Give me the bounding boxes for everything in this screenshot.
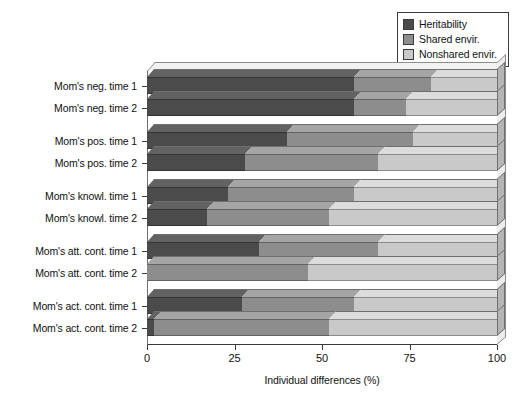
bar-top-face — [147, 146, 504, 154]
y-axis-label-10: Mom's act. cont. time 2 — [0, 322, 137, 334]
bar-segment-nonshared-envir — [329, 319, 497, 336]
bar-top-face — [147, 289, 504, 297]
bar-top-segment — [406, 91, 504, 99]
x-axis-tick-label-75: 75 — [403, 352, 415, 365]
x-axis-tick-label-0: 0 — [144, 352, 150, 365]
bar-top-face — [147, 234, 504, 242]
bar-top-segment — [147, 234, 266, 242]
bar-segment-nonshared-envir — [406, 99, 497, 116]
y-axis-label-8: Mom's att. cont. time 2 — [0, 267, 137, 279]
bar-top-segment — [287, 124, 420, 132]
y-axis-label-9: Mom's act. cont. time 1 — [0, 300, 137, 312]
y-axis-tick — [142, 108, 147, 109]
bar-top-segment — [228, 179, 361, 187]
bar-4 — [147, 154, 497, 171]
bar-top-segment — [147, 201, 214, 209]
y-axis-tick — [142, 218, 147, 219]
y-axis-label-4: Mom's pos. time 2 — [0, 157, 137, 169]
bar-top-segment — [147, 124, 294, 132]
bar-top-segment — [308, 256, 504, 264]
bar-top-segment — [147, 91, 361, 99]
bar-top-face — [147, 256, 504, 264]
bar-top-segment — [354, 91, 414, 99]
y-axis-label-7: Mom's att. cont. time 1 — [0, 245, 137, 257]
y-axis-tick — [142, 251, 147, 252]
y-axis-label-6: Mom's knowl. time 2 — [0, 212, 137, 224]
bar-top-segment — [207, 201, 337, 209]
bar-top-segment — [154, 311, 336, 319]
legend-swatch-heritability — [403, 19, 414, 30]
bar-segment-heritability — [147, 319, 154, 336]
bar-2 — [147, 99, 497, 116]
stacked-bar-chart: Heritability Shared envir. Nonshared env… — [0, 0, 519, 401]
bar-10 — [147, 319, 497, 336]
bar-segment-shared-envir — [207, 209, 330, 226]
bar-8 — [147, 264, 497, 281]
bar-top-face — [147, 91, 504, 99]
y-axis-tick — [142, 141, 147, 142]
y-axis-tick — [142, 86, 147, 87]
bar-top-face — [147, 124, 504, 132]
legend-swatch-nonshared-envir — [403, 49, 414, 60]
chart-legend: Heritability Shared envir. Nonshared env… — [397, 12, 509, 67]
x-axis-tick-label-25: 25 — [228, 352, 240, 365]
bar-top-segment — [329, 201, 504, 209]
bar-top-segment — [413, 124, 504, 132]
y-axis-tick — [142, 273, 147, 274]
bar-segment-heritability — [147, 99, 354, 116]
y-axis-tick — [142, 196, 147, 197]
legend-item-heritability: Heritability — [403, 17, 503, 31]
y-axis-tick — [142, 328, 147, 329]
bar-top-segment — [147, 256, 315, 264]
bar-segment-shared-envir — [154, 319, 329, 336]
y-axis-label-2: Mom's neg. time 2 — [0, 102, 137, 114]
x-axis-title: Individual differences (%) — [147, 374, 497, 386]
bar-top-segment — [245, 146, 385, 154]
bar-segment-nonshared-envir — [308, 264, 497, 281]
bar-6 — [147, 209, 497, 226]
y-axis-label-5: Mom's knowl. time 1 — [0, 190, 137, 202]
bar-top-face — [147, 179, 504, 187]
y-axis-tick — [142, 306, 147, 307]
x-axis-tick — [497, 345, 498, 350]
plot-area: Mom's neg. time 1Mom's neg. time 2Mom's … — [147, 71, 497, 345]
y-axis-label-3: Mom's pos. time 1 — [0, 135, 137, 147]
y-axis-tick — [142, 163, 147, 164]
bar-top-segment — [147, 289, 249, 297]
legend-item-shared-envir: Shared envir. — [403, 32, 503, 46]
bar-top-segment — [354, 179, 505, 187]
bar-top-segment — [378, 146, 504, 154]
bar-top-segment — [354, 69, 438, 77]
bar-segment-shared-envir — [147, 264, 308, 281]
bar-segment-heritability — [147, 209, 207, 226]
x-axis-tick — [410, 345, 411, 350]
bar-top-segment — [242, 289, 361, 297]
bar-top-face — [147, 69, 504, 77]
bar-segment-nonshared-envir — [378, 154, 497, 171]
legend-label-nonshared-envir: Nonshared envir. — [419, 48, 497, 60]
bar-segment-nonshared-envir — [329, 209, 497, 226]
y-axis-label-1: Mom's neg. time 1 — [0, 80, 137, 92]
bar-top-segment — [431, 69, 505, 77]
x-axis-tick-label-100: 100 — [488, 352, 506, 365]
bar-top-segment — [259, 234, 385, 242]
legend-label-heritability: Heritability — [419, 18, 467, 30]
x-axis-tick — [235, 345, 236, 350]
x-axis-tick-label-50: 50 — [316, 352, 328, 365]
bar-segment-shared-envir — [245, 154, 378, 171]
bar-segment-heritability — [147, 154, 245, 171]
bar-top-segment — [147, 179, 235, 187]
bar-segment-shared-envir — [354, 99, 407, 116]
bar-top-segment — [147, 146, 252, 154]
bar-top-face — [147, 201, 504, 209]
legend-label-shared-envir: Shared envir. — [419, 33, 480, 45]
x-axis-tick — [322, 345, 323, 350]
legend-swatch-shared-envir — [403, 34, 414, 45]
legend-item-nonshared-envir: Nonshared envir. — [403, 47, 503, 61]
bar-top-face — [147, 311, 504, 319]
bar-top-segment — [354, 289, 505, 297]
bar-top-segment — [378, 234, 504, 242]
bar-top-segment — [147, 69, 361, 77]
x-axis-tick — [147, 345, 148, 350]
bar-top-segment — [329, 311, 504, 319]
